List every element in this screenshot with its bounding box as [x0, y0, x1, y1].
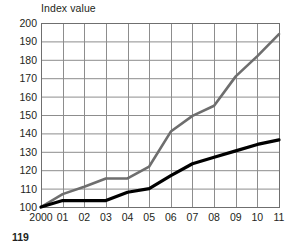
- horizontal-gridlines: [41, 24, 279, 208]
- y-tick-label: 130: [5, 147, 37, 158]
- x-tick-label: 05: [139, 212, 159, 223]
- page-number: 119: [12, 231, 29, 243]
- x-tick-label: 06: [161, 212, 181, 223]
- x-tick-label: 02: [74, 212, 94, 223]
- y-tick-label: 200: [5, 18, 37, 29]
- x-tick-label: 08: [204, 212, 224, 223]
- x-tick-label: 10: [247, 212, 267, 223]
- chart-figure: Index value 1001101201301401501601701801…: [0, 0, 293, 251]
- y-tick-label: 140: [5, 128, 37, 139]
- x-tick-label: 07: [182, 212, 202, 223]
- y-tick-label: 180: [5, 55, 37, 66]
- x-tick-label: 03: [96, 212, 116, 223]
- y-tick-label: 110: [5, 184, 37, 195]
- y-tick-label: 190: [5, 36, 37, 47]
- y-tick-label: 150: [5, 110, 37, 121]
- x-tick-label: 04: [118, 212, 138, 223]
- y-tick-label: 160: [5, 92, 37, 103]
- x-tick-label: 09: [226, 212, 246, 223]
- y-tick-label: 170: [5, 73, 37, 84]
- y-tick-label: 120: [5, 165, 37, 176]
- x-tick-label: 11: [269, 212, 289, 223]
- x-tick-label: 01: [53, 212, 73, 223]
- plot-area: 100110120130140150160170180190200 200001…: [0, 0, 293, 251]
